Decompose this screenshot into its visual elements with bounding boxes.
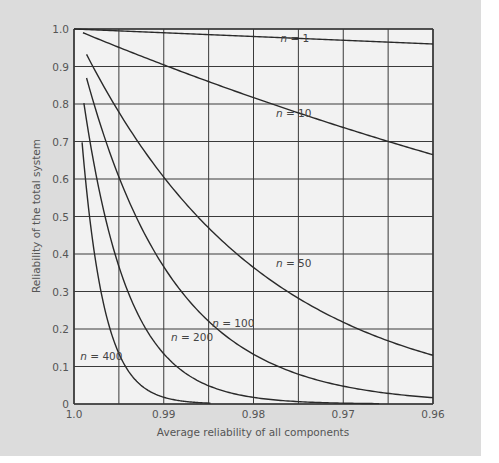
y-tick-label: 0.1 [52, 361, 69, 373]
y-tick-label: 0.9 [52, 61, 69, 73]
curve-label-n-50: n = 50 [276, 257, 312, 269]
y-axis-label: Reliability of the total system [30, 139, 42, 293]
x-tick-label: 0.99 [152, 408, 175, 420]
curve-label-n-1: n = 1 [280, 32, 309, 44]
x-tick-label: 1.0 [66, 408, 83, 420]
y-tick-label: 0.6 [52, 173, 69, 185]
x-tick-label: 0.98 [242, 408, 265, 420]
y-tick-label: 0.2 [52, 323, 69, 335]
curve-label-n-400: n = 400 [80, 350, 122, 362]
x-tick-label: 0.97 [332, 408, 355, 420]
curve-label-n-10: n = 10 [276, 107, 312, 119]
y-tick-label: 0.3 [52, 286, 69, 298]
x-axis-ticks: 1.00.990.980.970.96 [66, 408, 445, 420]
reliability-chart: 00.10.20.30.40.50.60.70.80.91.0 1.00.990… [0, 0, 499, 463]
y-tick-label: 0.5 [52, 211, 69, 223]
y-tick-label: 1.0 [52, 23, 69, 35]
y-axis-ticks: 00.10.20.30.40.50.60.70.80.91.0 [52, 23, 69, 410]
y-tick-label: 0.4 [52, 248, 69, 260]
y-tick-label: 0.7 [52, 136, 69, 148]
x-tick-label: 0.96 [421, 408, 445, 420]
curve-label-n-100: n = 100 [212, 317, 254, 329]
x-axis-label: Average reliability of all components [157, 426, 349, 438]
y-tick-label: 0.8 [52, 98, 69, 110]
curve-label-n-200: n = 200 [171, 331, 213, 343]
